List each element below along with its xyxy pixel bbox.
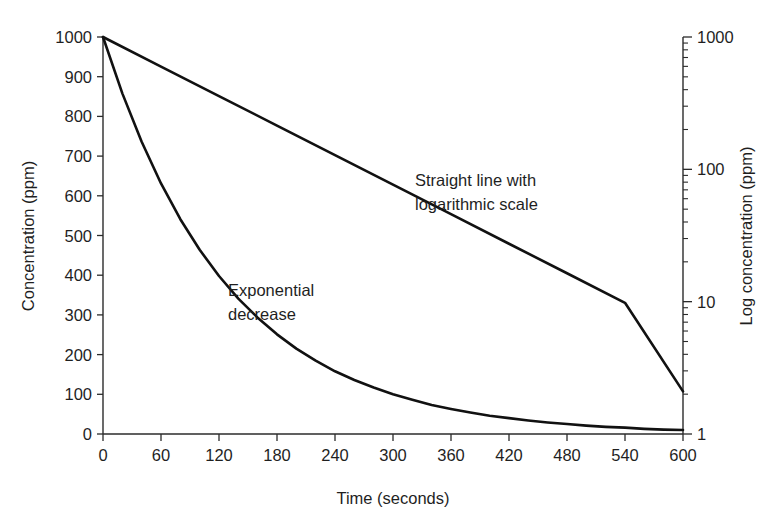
left-tick-label: 300 [64,306,92,324]
bottom-tick-label: 180 [263,446,291,464]
chart-figure: 01002003004005006007008009001000 0601201… [0,0,779,521]
right-tick-label: 100 [697,160,725,178]
bottom-tick-label: 480 [553,446,581,464]
straight-line-annotation-line2: logarithmic scale [415,195,538,213]
left-tick-label: 800 [64,107,92,125]
exponential-annotation-line1: Exponential [228,281,314,299]
right-tick-label: 1000 [697,28,734,46]
left-tick-label: 900 [64,68,92,86]
straight-line-annotation-line1: Straight line with [415,171,536,189]
bottom-tick-label: 540 [611,446,639,464]
bottom-tick-label: 360 [437,446,465,464]
bottom-tick-label: 60 [152,446,170,464]
left-tick-label: 0 [83,425,92,443]
left-tick-label: 200 [64,346,92,364]
bottom-tick-label: 420 [495,446,523,464]
bottom-tick-label: 300 [379,446,407,464]
chart-svg: 01002003004005006007008009001000 0601201… [0,0,779,521]
left-tick-label: 1000 [55,28,92,46]
right-tick-label: 10 [697,293,715,311]
bottom-tick-label: 240 [321,446,349,464]
bottom-tick-label: 600 [669,446,697,464]
right-axis-title: Log concentration (ppm) [737,147,755,326]
bottom-axis-title: Time (seconds) [336,489,449,507]
right-tick-label: 1 [697,425,706,443]
left-tick-label: 600 [64,187,92,205]
left-tick-label: 100 [64,385,92,403]
exponential-annotation-line2: decrease [228,305,296,323]
left-tick-label: 400 [64,266,92,284]
bottom-tick-label: 120 [205,446,233,464]
bottom-tick-label: 0 [98,446,107,464]
left-tick-label: 500 [64,227,92,245]
left-axis-title: Concentration (ppm) [19,161,37,311]
left-tick-label: 700 [64,147,92,165]
